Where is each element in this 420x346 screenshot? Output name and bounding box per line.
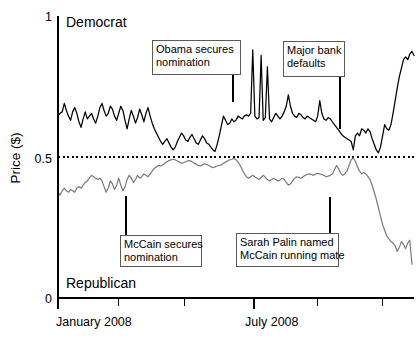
republican-region-label: Republican [66,275,136,291]
price-chart: 1 0.5 0 Price ($) January 2008 July 2008… [0,0,420,346]
annotation-line-1: Major bank [287,44,342,56]
annotation-line-1: McCain secures [124,238,203,250]
democrat-region-label: Democrat [66,14,127,30]
x-tick-label-july: July 2008 [245,315,299,329]
y-tick-label-bottom: 0 [45,292,52,306]
annotation-line-2: McCain running mate [240,249,345,261]
annotation-line-2: nomination [156,56,210,68]
annotation-line-1: Sarah Palin named [240,236,334,248]
x-tick-label-january: January 2008 [56,315,132,329]
annotation-line-1: Obama secures [156,43,234,55]
y-axis-title: Price ($) [8,132,23,183]
y-tick-label-mid: 0.5 [35,152,52,166]
annotation-line-2: nomination [124,251,178,263]
y-axis-label: Price ($) [8,132,23,183]
annotation-line-2: defaults [287,57,326,69]
chart-svg: 1 0.5 0 Price ($) January 2008 July 2008… [0,0,420,346]
y-tick-label-top: 1 [45,10,52,24]
